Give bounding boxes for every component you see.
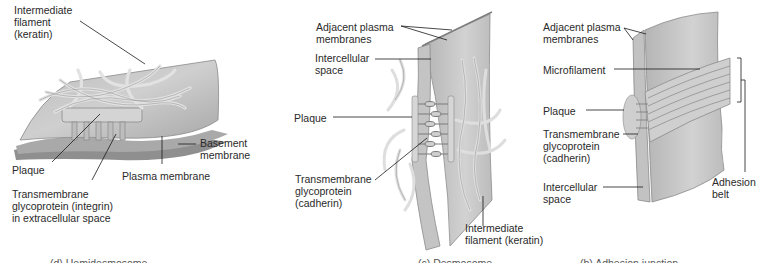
label-intermediate-filament: Intermediate filament (keratin) bbox=[14, 4, 72, 40]
label-plaque: Plaque bbox=[543, 105, 576, 117]
label-intercellular-space: Intercellular space bbox=[543, 181, 597, 205]
label-transmembrane-integrin: Transmembrane glycoprotein (integrin) in… bbox=[12, 188, 113, 224]
label-plasma-membrane: Plasma membrane bbox=[122, 170, 210, 182]
label-adhesion-belt: Adhesion belt bbox=[712, 176, 756, 200]
label-intermediate-filament: Intermediate filament (keratin) bbox=[465, 222, 543, 246]
label-plaque: Plaque bbox=[294, 112, 327, 124]
label-adjacent-membranes: Adjacent plasma membranes bbox=[543, 21, 621, 45]
label-transmembrane-cadherin: Transmembrane glycoprotein (cadherin) bbox=[295, 173, 372, 209]
label-plaque: Plaque bbox=[12, 164, 45, 176]
label-microfilament: Microfilament bbox=[543, 64, 605, 76]
label-transmembrane-cadherin: Transmembrane glycoprotein (cadherin) bbox=[543, 128, 620, 164]
label-basement-membrane: Basement membrane bbox=[200, 137, 250, 161]
caption-adhesion-junction: (b) Adhesion junction bbox=[580, 257, 678, 263]
desmosome-illustration bbox=[333, 12, 505, 250]
caption-hemidesmosome: (d) Hemidesmosome bbox=[50, 257, 147, 263]
caption-desmosome: (c) Desmosome bbox=[418, 257, 492, 263]
label-intercellular-space: Intercellular space bbox=[315, 52, 369, 76]
label-adjacent-membranes: Adjacent plasma membranes bbox=[316, 21, 394, 45]
hemidesmosome-illustration bbox=[14, 21, 228, 180]
